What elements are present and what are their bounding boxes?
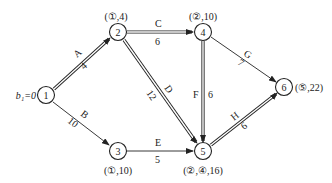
edge-B-weight: 10 bbox=[66, 115, 81, 130]
node-1-label: 1 bbox=[44, 90, 49, 101]
edge-H-weight: 6 bbox=[238, 120, 249, 132]
edge-E-weight: 5 bbox=[155, 154, 160, 165]
node-6-label: 6 bbox=[282, 82, 287, 93]
edge-C: C 6 bbox=[127, 18, 193, 47]
node-2-label: 2 bbox=[116, 27, 121, 38]
node-4: 4 bbox=[195, 24, 212, 41]
edge-D-weight: 12 bbox=[144, 88, 159, 103]
node-6-annotation: (⑤,22) bbox=[295, 82, 323, 94]
edge-F-name: F bbox=[193, 89, 199, 100]
node-6: 6 bbox=[276, 79, 293, 96]
edge-B-name: B bbox=[79, 108, 91, 121]
node-3-label: 3 bbox=[116, 146, 121, 157]
edge-C-weight: 6 bbox=[155, 36, 160, 47]
node-5-label: 5 bbox=[201, 146, 206, 157]
edge-F: F 6 bbox=[193, 41, 213, 142]
edge-H: H 6 bbox=[211, 93, 277, 145]
edge-C-name: C bbox=[155, 18, 162, 29]
network-diagram: A 4 B 10 C 6 D 12 E 5 F 6 G bbox=[0, 0, 332, 183]
node-2-annotation: (①,4) bbox=[104, 11, 127, 23]
node-4-label: 4 bbox=[201, 27, 206, 38]
edge-B: B 10 bbox=[53, 102, 109, 145]
edge-D-name: D bbox=[162, 83, 175, 95]
node-1: 1 bbox=[38, 87, 55, 104]
edge-A-name: A bbox=[71, 46, 84, 60]
node-4-annotation: (②,10) bbox=[189, 11, 217, 23]
edge-E-name: E bbox=[155, 137, 161, 148]
edge-G-weight: 7 bbox=[236, 57, 246, 69]
node-3: 3 bbox=[110, 143, 127, 160]
node-3-annotation: (①,10) bbox=[104, 165, 132, 177]
node-2: 2 bbox=[110, 24, 127, 41]
edge-G: G 7 bbox=[211, 37, 276, 82]
edge-F-weight: 6 bbox=[208, 89, 213, 100]
edge-E: E 5 bbox=[127, 137, 193, 165]
edge-D: D 12 bbox=[124, 40, 197, 143]
node-5-annotation: (②,④,16) bbox=[183, 165, 223, 177]
node-5: 5 bbox=[195, 143, 212, 160]
edge-A: A 4 bbox=[54, 38, 110, 89]
edge-H-name: H bbox=[228, 109, 240, 122]
start-label: b₁=0 bbox=[16, 90, 36, 101]
